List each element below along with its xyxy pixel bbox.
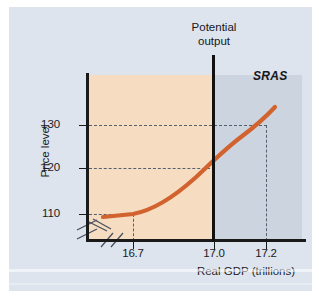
region-above-potential [214,75,302,240]
y-tick-mark-120 [79,168,88,169]
x-axis-line [86,239,306,242]
potential-output-caption: Potential output [163,20,265,48]
sras-curve-label: SRAS [253,69,288,83]
y-axis-label: Price level [39,106,51,196]
potential-output-caption-line-1: Potential [163,20,265,34]
y-tick-label-110: 110 [20,207,60,219]
potential-output-line [212,55,215,242]
chart-panel: 130 120 110 16.7 17.0 17.2 Price level R… [9,7,312,291]
panel-highlight-band-2 [9,283,312,285]
y-tick-mark-130 [79,125,88,126]
gridline-price-110 [89,214,136,215]
y-tick-mark-110 [79,214,88,215]
x-tick-label-17-2: 17.2 [244,247,288,259]
gridline-price-130 [89,125,267,126]
panel-highlight-band-1 [9,269,312,272]
x-tick-label-17-0: 17.0 [192,247,236,259]
x-tick-label-16-7: 16.7 [111,247,155,259]
gridline-price-120 [89,168,215,169]
y-axis-line [86,73,89,242]
potential-output-caption-line-2: output [163,34,265,48]
gridline-gdp-16-7 [133,214,134,241]
region-below-potential [88,75,214,240]
figure-container: 130 120 110 16.7 17.0 17.2 Price level R… [0,0,319,299]
gridline-gdp-17-2 [266,125,267,241]
